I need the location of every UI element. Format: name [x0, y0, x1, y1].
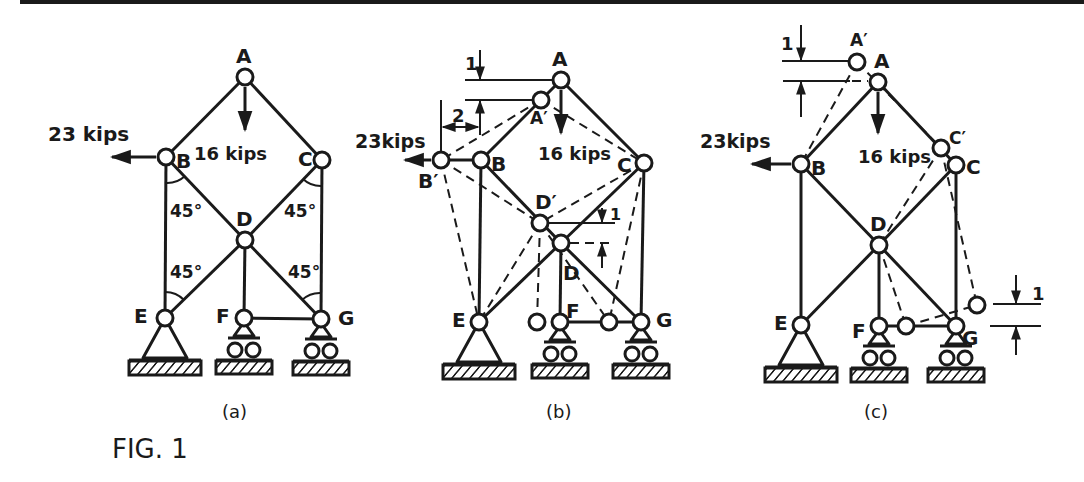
load-label-horizontal: 23kips [355, 130, 426, 152]
node-label-d: D [870, 212, 887, 236]
node-label-f: F [566, 299, 580, 323]
truss-figure: A B C D E F G 23 kips 16 kips 45° 45° 45… [0, 0, 1084, 482]
node-label-a-prime: A′ [530, 108, 548, 128]
load-label-vertical: 16 kips [858, 146, 931, 167]
node-label-c: C [617, 153, 632, 177]
node-label-e: E [452, 308, 466, 332]
top-border [20, 0, 1084, 4]
node-label-a: A [236, 44, 252, 68]
node-label-f: F [852, 319, 866, 343]
load-label-horizontal: 23 kips [48, 122, 129, 146]
node-label-c: C [966, 155, 981, 179]
node-label-a-prime: A′ [850, 30, 868, 50]
node-label-d: D [563, 261, 580, 285]
node-label-f: F [216, 304, 230, 328]
node-label-a: A [874, 49, 890, 73]
angle-label: 45° [170, 201, 202, 221]
dimension-label: 2 [452, 105, 465, 126]
angle-label: 45° [288, 262, 320, 282]
node-label-b: B [811, 156, 826, 180]
dimension-label: 1 [1032, 283, 1045, 304]
panel-caption-b: (b) [546, 401, 571, 422]
panel-c [752, 25, 1041, 382]
dimension-label: 1 [781, 33, 794, 54]
node-label-e: E [774, 311, 788, 335]
node-label-d: D [236, 207, 253, 231]
panel-a [112, 69, 349, 375]
dimension-label: 1 [465, 53, 478, 74]
panel-caption-c: (c) [864, 401, 888, 422]
panel-caption-a: (a) [222, 401, 247, 422]
angle-label: 45° [284, 201, 316, 221]
panel-b [405, 50, 669, 379]
figure-title: FIG. 1 [112, 434, 188, 464]
node-label-b: B [491, 152, 506, 176]
node-label-a: A [552, 47, 568, 71]
load-label-horizontal: 23kips [700, 130, 771, 152]
node-label-b-prime: B′ [418, 169, 439, 193]
node-label-b: B [176, 149, 191, 173]
angle-label: 45° [170, 262, 202, 282]
node-label-g: G [338, 306, 354, 330]
load-label-vertical: 16 kips [538, 143, 611, 164]
node-label-g: G [656, 308, 672, 332]
node-label-c-prime: C′ [949, 128, 966, 148]
dimension-label: 1 [610, 205, 621, 224]
load-label-vertical: 16 kips [194, 143, 267, 164]
node-label-e: E [134, 304, 148, 328]
node-label-g: G [962, 326, 978, 350]
node-label-c: C [298, 147, 313, 171]
node-label-d-prime: D′ [535, 190, 557, 214]
